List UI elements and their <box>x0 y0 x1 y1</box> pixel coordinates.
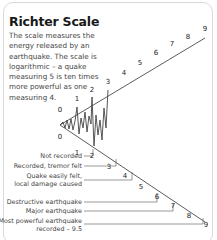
top-number-5: 5 <box>138 59 142 67</box>
top-number-0: 0 <box>58 106 62 114</box>
label-easily-felt-2: local damage caused <box>14 180 82 188</box>
label-most-powerful-2: recorded – 9.5 <box>36 225 82 233</box>
label-easily-felt-1: Quake easily felt, <box>27 172 82 180</box>
bottom-number-8: 8 <box>187 212 191 220</box>
top-number-7: 7 <box>170 40 174 48</box>
top-number-6: 6 <box>154 49 159 57</box>
top-number-1: 1 <box>75 95 79 103</box>
seismic-wave <box>60 90 108 146</box>
top-number-4: 4 <box>122 69 127 77</box>
richter-diagram: 0 1 2 3 4 5 6 7 8 9 0 1 2 3 4 5 6 7 8 9 … <box>0 0 217 233</box>
bottom-number-4: 4 <box>123 172 128 180</box>
label-destructive: Destructive earthquake <box>7 198 82 206</box>
top-number-8: 8 <box>186 33 190 41</box>
bottom-number-3: 3 <box>107 163 111 171</box>
top-number-2: 2 <box>90 86 94 94</box>
magnitude-labels: Not recorded Recorded, tremor felt Quake… <box>0 152 82 233</box>
label-most-powerful-1: Most powerful earthquake <box>0 217 82 225</box>
bottom-number-5: 5 <box>139 183 143 191</box>
top-number-9: 9 <box>203 25 207 33</box>
bottom-number-0: 0 <box>58 133 62 141</box>
label-not-recorded: Not recorded <box>40 152 82 160</box>
label-tremor-felt: Recorded, tremor felt <box>14 162 83 170</box>
top-number-3: 3 <box>106 78 110 86</box>
label-major: Major earthquake <box>26 207 82 215</box>
bottom-number-9: 9 <box>204 221 208 229</box>
